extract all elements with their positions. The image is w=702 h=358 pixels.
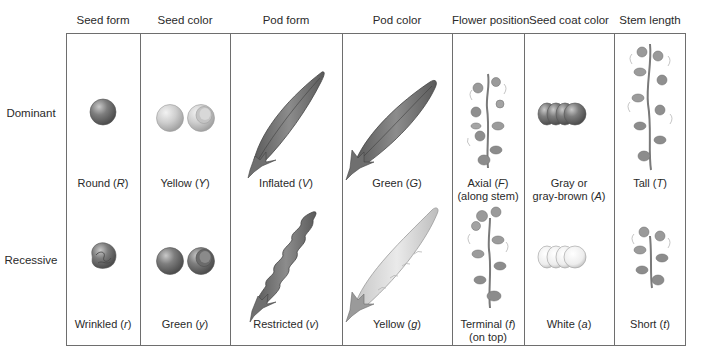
recessive-label-seed-coat-color: White (a) xyxy=(524,318,614,331)
recessive-label-seed-form: Wrinkled (r) xyxy=(66,318,140,331)
round-seed-icon xyxy=(90,99,116,125)
inflated-pod-icon xyxy=(248,72,324,178)
trait-text: Restricted xyxy=(253,318,303,330)
recessive-label-pod-form: Restricted (v) xyxy=(230,318,342,331)
paren-close: ) xyxy=(315,318,319,330)
trait-text: Short xyxy=(630,318,656,330)
terminal-flowers-plant-icon xyxy=(468,207,508,308)
dominant-label-stem-length: Tall (T) xyxy=(614,177,686,190)
paren-close: ) xyxy=(417,318,421,330)
trait-text: Round xyxy=(78,177,110,189)
trait-text-line1: Gray or xyxy=(551,177,588,189)
dominant-label-pod-color: Green (G) xyxy=(342,177,452,190)
green-pod-icon xyxy=(346,80,436,180)
paren-open: ( xyxy=(192,177,199,189)
recessive-label-seed-color: Green (y) xyxy=(140,318,230,331)
recessive-label-flower-position: Terminal (f) (on top) xyxy=(452,318,524,344)
trait-text: Tall xyxy=(633,177,650,189)
recessive-label-pod-color: Yellow (g) xyxy=(342,318,452,331)
wrinkled-seed-icon xyxy=(92,243,116,269)
paren-close: ) xyxy=(602,190,606,202)
allele-symbol: G xyxy=(410,177,419,189)
allele-symbol: Y xyxy=(199,177,206,189)
paren-close: ) xyxy=(512,318,516,330)
short-plant-icon xyxy=(632,227,670,288)
trait-text: Yellow xyxy=(160,177,191,189)
trait-text: White xyxy=(547,318,575,330)
axial-flowers-plant-icon xyxy=(467,74,506,168)
dominant-label-seed-color: Yellow (Y) xyxy=(140,177,230,190)
tall-plant-icon xyxy=(628,44,672,170)
gray-seed-coats-icon xyxy=(538,103,586,125)
trait-text: Green xyxy=(372,177,403,189)
restricted-pod-icon xyxy=(250,212,316,322)
dominant-label-flower-position: Axial (F) (along stem) xyxy=(452,177,524,203)
paren-open: ( xyxy=(303,318,310,330)
paren-open: ( xyxy=(117,318,124,330)
paren-open: ( xyxy=(295,177,302,189)
trait-note: (along stem) xyxy=(457,190,518,202)
dominant-label-pod-form: Inflated (V) xyxy=(230,177,342,190)
paren-open: ( xyxy=(110,177,117,189)
dominant-label-seed-coat-color: Gray or gray-brown (A) xyxy=(524,177,614,203)
trait-note: (on top) xyxy=(469,331,507,343)
paren-open: ( xyxy=(502,318,509,330)
paren-close: ) xyxy=(663,177,667,189)
paren-close: ) xyxy=(418,177,422,189)
allele-symbol: R xyxy=(117,177,125,189)
yellow-pod-icon xyxy=(346,208,438,322)
dominant-label-seed-form: Round (R) xyxy=(66,177,140,190)
paren-open: ( xyxy=(403,177,410,189)
trait-text: Green xyxy=(162,318,193,330)
paren-close: ) xyxy=(309,177,313,189)
paren-close: ) xyxy=(125,177,129,189)
trait-text: gray-brown xyxy=(533,190,588,202)
paren-close: ) xyxy=(128,318,132,330)
paren-open: ( xyxy=(575,318,582,330)
paren-close: ) xyxy=(588,318,592,330)
green-seeds-icon xyxy=(157,248,215,275)
paren-close: ) xyxy=(505,177,509,189)
trait-text: Wrinkled xyxy=(75,318,118,330)
white-seed-coats-icon xyxy=(538,246,586,268)
paren-close: ) xyxy=(205,318,209,330)
trait-text: Axial xyxy=(468,177,492,189)
trait-text: Yellow xyxy=(373,318,404,330)
allele-symbol: F xyxy=(498,177,505,189)
yellow-seeds-icon xyxy=(157,105,215,132)
allele-symbol: A xyxy=(594,190,601,202)
paren-close: ) xyxy=(206,177,210,189)
trait-text: Inflated xyxy=(259,177,295,189)
paren-close: ) xyxy=(666,318,670,330)
recessive-label-stem-length: Short (t) xyxy=(614,318,686,331)
trait-text: Terminal xyxy=(460,318,502,330)
